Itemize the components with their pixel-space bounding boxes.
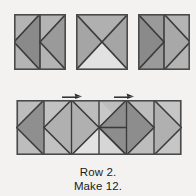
seam-direction-arrow-1 <box>62 93 82 100</box>
flying-geese-left-unit-graphic <box>14 14 66 70</box>
hourglass-unit-graphic <box>76 14 128 70</box>
arrow-right-icon <box>114 93 134 100</box>
seam-direction-arrow-2 <box>114 93 134 100</box>
arrow-right-icon <box>62 93 82 100</box>
flying-geese-left-unit <box>14 14 66 70</box>
flying-geese-right-unit <box>138 14 190 70</box>
flying-geese-right-unit-graphic <box>138 14 190 70</box>
quilt-diagram-page: Row 2. Make 12. <box>0 0 196 196</box>
assembled-row-strip-graphic <box>16 100 182 155</box>
hourglass-unit <box>76 14 128 70</box>
caption-row-label: Row 2. <box>0 166 196 179</box>
assembled-row-strip <box>16 100 182 155</box>
caption-make-label: Make 12. <box>0 180 196 193</box>
